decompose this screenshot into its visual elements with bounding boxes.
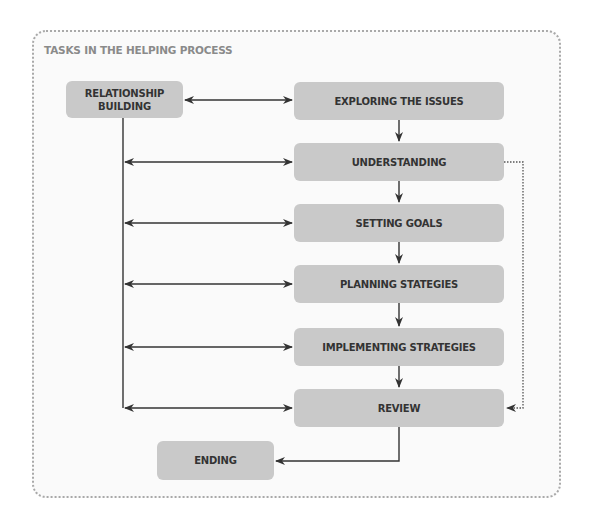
node-exploring-the-issues: EXPLORING THE ISSUES: [294, 82, 504, 120]
node-relationship-building: RELATIONSHIP BUILDING: [66, 81, 183, 118]
node-implementing-strategies: IMPLEMENTING STRATEGIES: [294, 328, 504, 366]
node-ending: ENDING: [157, 441, 274, 480]
node-label: PLANNING STATEGIES: [340, 278, 458, 291]
node-understanding: UNDERSTANDING: [294, 143, 504, 181]
node-label: RELATIONSHIP: [85, 87, 165, 100]
node-label: SETTING GOALS: [356, 217, 443, 230]
node-review: REVIEW: [294, 389, 504, 427]
node-label: IMPLEMENTING STRATEGIES: [322, 341, 476, 354]
node-label: BUILDING: [98, 100, 151, 113]
node-setting-goals: SETTING GOALS: [294, 204, 504, 242]
node-label: ENDING: [194, 454, 237, 467]
node-label: REVIEW: [378, 402, 421, 415]
connector-lines: [0, 0, 591, 528]
node-planning-strategies: PLANNING STATEGIES: [294, 265, 504, 303]
node-label: UNDERSTANDING: [352, 156, 447, 169]
node-label: EXPLORING THE ISSUES: [334, 95, 463, 108]
